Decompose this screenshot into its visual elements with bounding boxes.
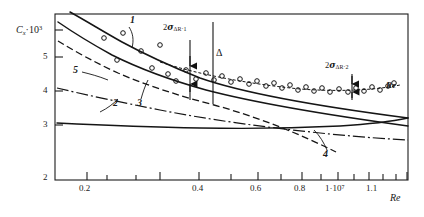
sigma-1-subscript: ΔR·1 <box>174 26 187 32</box>
curve-label-1: 1 <box>130 14 135 25</box>
curve-label-5: 5 <box>73 64 78 75</box>
x-tick-label-0-8: 0.8 <box>294 183 305 193</box>
figure-root: Cx·103 Re <box>0 0 424 217</box>
x-tick-label-0-6: 0.6 <box>250 183 261 193</box>
y-tick-label-3: 3 <box>43 119 48 129</box>
plot-frame <box>55 14 408 180</box>
chart-canvas <box>0 0 424 217</box>
y-tick-label-2: 2 <box>43 172 48 182</box>
annotation-sigma-2-label: 2σΔR·2 <box>325 60 348 70</box>
sigma-2-subscript: ΔR·2 <box>336 64 349 70</box>
x-tick-label-0-2: 0.2 <box>79 183 90 193</box>
y-tick-label-4: 4 <box>43 85 48 95</box>
x-tick-label-1e7: 1·10⁷ <box>325 183 345 193</box>
curve-label-4: 4 <box>323 148 328 159</box>
x-tick-label-1-1: 1.1 <box>366 183 377 193</box>
curve-label-3: 3 <box>137 97 142 108</box>
curve-label-2: 2 <box>113 97 118 108</box>
annotation-sigma-1-label: 2σΔR·1 <box>163 22 186 32</box>
annotation-re-end-label: Re <box>386 80 396 90</box>
annotation-delta-label: Δ <box>216 47 222 58</box>
y-tick-label-5: 5 <box>43 51 48 61</box>
x-tick-label-0-4: 0.4 <box>192 183 203 193</box>
